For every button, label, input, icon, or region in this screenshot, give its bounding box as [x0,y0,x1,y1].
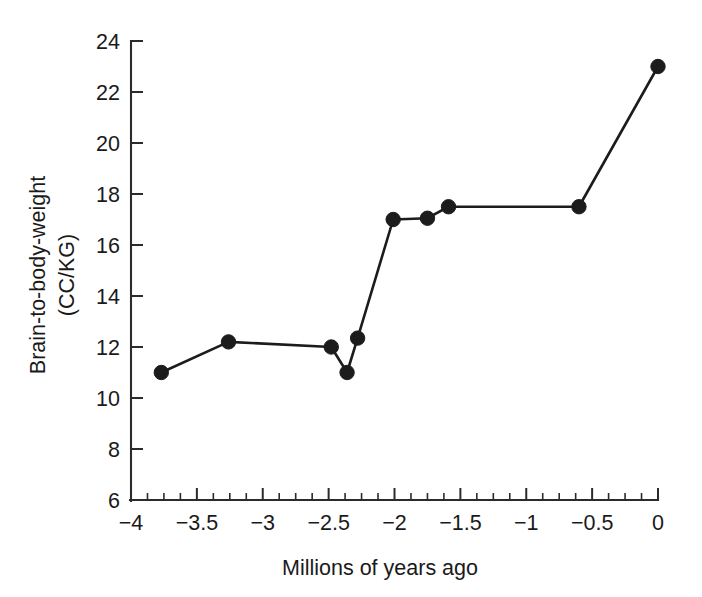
x-tick-label-4: −2 [382,511,407,535]
data-point-4 [350,331,364,345]
x-tick-label-3: −2.5 [307,511,349,535]
y-tick-label-22: 22 [96,81,120,105]
data-point-2 [324,340,338,354]
data-point-3 [340,365,354,379]
x-tick-label-0: −4 [119,511,144,535]
data-point-1 [221,335,235,349]
data-point-9 [651,59,665,73]
x-tick-label-2: −3 [250,511,275,535]
data-point-0 [154,365,168,379]
y-tick-label-10: 10 [96,387,120,411]
y-axis-ticks [131,41,143,500]
chart-figure: 681012141618202224 −4−3.5−3−2.5−2−1.5−1−… [0,0,702,597]
x-tick-label-6: −1 [514,511,539,535]
y-tick-label-18: 18 [96,183,120,207]
data-point-5 [386,212,400,226]
y-axis-title-line2: (CC/KG) [55,234,79,316]
data-point-8 [572,200,586,214]
x-axis-tick-labels: −4−3.5−3−2.5−2−1.5−1−0.50 [119,511,664,535]
y-tick-label-6: 6 [108,489,120,513]
data-point-6 [420,211,434,225]
y-tick-label-16: 16 [96,234,120,258]
x-tick-label-1: −3.5 [176,511,218,535]
x-tick-label-7: −0.5 [571,511,613,535]
x-tick-label-8: 0 [652,511,664,535]
chart-axes [130,41,658,501]
y-axis-title-line1: Brain-to-body-weight [26,176,50,374]
x-tick-label-5: −1.5 [439,511,481,535]
y-tick-label-8: 8 [108,438,120,462]
y-axis-tick-labels: 681012141618202224 [96,30,120,513]
series-line-brain-to-body-weight [161,67,658,373]
y-tick-label-24: 24 [96,30,120,54]
y-tick-label-14: 14 [96,285,120,309]
y-tick-label-12: 12 [96,336,120,360]
data-series-group [154,59,665,379]
y-tick-label-20: 20 [96,132,120,156]
x-axis-title: Millions of years ago [282,556,478,580]
line-chart-svg: 681012141618202224 −4−3.5−3−2.5−2−1.5−1−… [0,0,702,597]
data-point-7 [441,200,455,214]
x-axis-ticks [131,488,658,500]
